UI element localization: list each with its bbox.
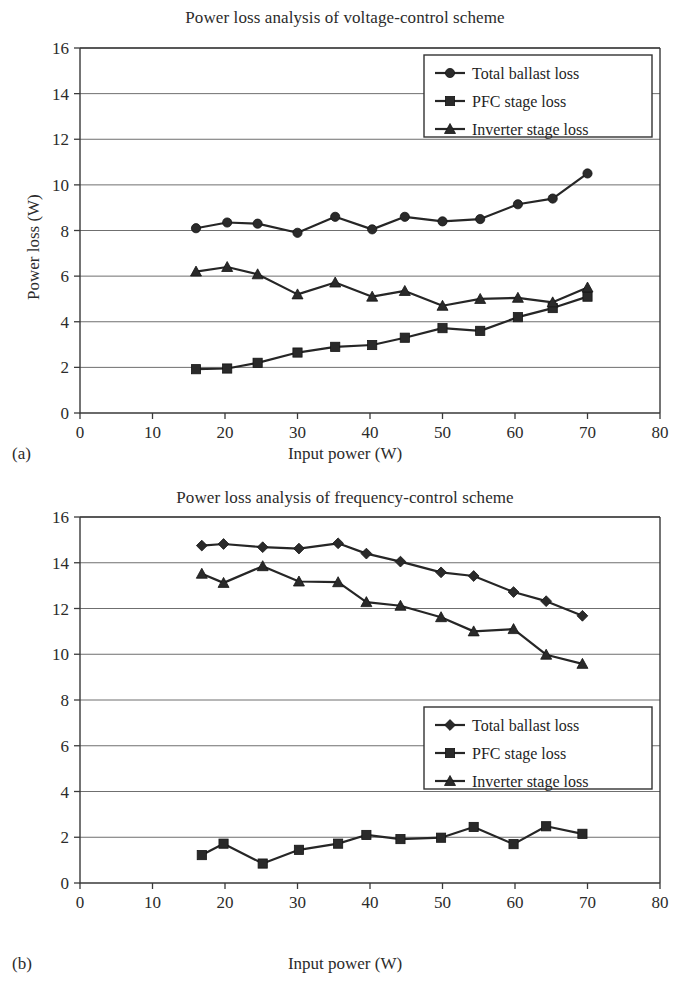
data-point-circle-marker	[438, 217, 447, 226]
y-tick-label: 4	[61, 313, 70, 332]
y-axis-title-a: Power loss (W)	[24, 194, 44, 300]
y-tick-label: 14	[52, 554, 70, 573]
x-tick-label: 40	[362, 423, 379, 440]
chart-legend: Total ballast lossPFC stage lossInverter…	[424, 707, 652, 791]
data-point-diamond-marker	[468, 571, 479, 582]
data-point-diamond-marker	[577, 610, 588, 621]
data-point-circle-marker	[368, 225, 377, 234]
data-point-square-marker	[293, 348, 302, 357]
data-point-square-marker	[294, 845, 303, 854]
series-line	[202, 566, 583, 664]
chart-svg-a: 024681012141601020304050607080Total ball…	[0, 0, 690, 440]
data-point-square-marker	[331, 342, 340, 351]
data-point-diamond-marker	[436, 567, 447, 578]
data-point-triangle-marker	[196, 568, 207, 578]
y-tick-label: 10	[52, 645, 69, 664]
plot-area-a: 024681012141601020304050607080Total ball…	[0, 0, 690, 480]
legend-label: PFC stage loss	[472, 93, 566, 111]
series-total-ballast-loss	[191, 169, 592, 238]
series-line	[196, 267, 588, 306]
data-point-diamond-marker	[361, 548, 372, 559]
y-tick-label: 0	[61, 874, 70, 893]
data-point-square-marker	[191, 365, 200, 374]
data-point-square-marker	[542, 822, 551, 831]
x-tick-label: 20	[217, 893, 234, 912]
data-point-square-marker	[445, 96, 454, 105]
x-tick-label: 30	[289, 423, 306, 440]
x-tick-label: 70	[579, 893, 596, 912]
y-tick-label: 2	[61, 828, 70, 847]
data-point-square-marker	[436, 833, 445, 842]
y-tick-label: 8	[61, 691, 70, 710]
data-point-square-marker	[445, 748, 454, 757]
x-tick-label: 0	[76, 893, 85, 912]
legend-label: Total ballast loss	[472, 717, 579, 734]
y-tick-label: 4	[61, 783, 70, 802]
x-tick-label: 60	[507, 423, 524, 440]
series-line	[202, 826, 583, 863]
y-tick-label: 10	[52, 176, 69, 195]
x-tick-label: 20	[217, 423, 234, 440]
data-point-square-marker	[509, 840, 518, 849]
legend-label: Inverter stage loss	[472, 121, 588, 139]
data-point-circle-marker	[253, 219, 262, 228]
data-point-diamond-marker	[508, 587, 519, 598]
x-tick-label: 60	[507, 893, 524, 912]
data-point-square-marker	[219, 839, 228, 848]
y-tick-label: 6	[61, 267, 70, 286]
series-pfc-stage-loss	[191, 292, 592, 374]
data-point-circle-marker	[331, 212, 340, 221]
y-tick-label: 16	[52, 508, 69, 527]
data-point-triangle-marker	[257, 561, 268, 571]
x-tick-label: 40	[362, 893, 379, 912]
y-tick-label: 0	[61, 404, 70, 423]
panel-label-b: (b)	[12, 954, 32, 974]
data-point-circle-marker	[583, 169, 592, 178]
data-point-triangle-marker	[582, 282, 593, 292]
data-point-diamond-marker	[218, 539, 229, 550]
legend-label: PFC stage loss	[472, 745, 566, 763]
legend-label: Total ballast loss	[472, 65, 579, 82]
data-point-square-marker	[362, 830, 371, 839]
data-point-square-marker	[223, 364, 232, 373]
data-point-square-marker	[197, 850, 206, 859]
data-point-square-marker	[578, 829, 587, 838]
data-point-circle-marker	[293, 228, 302, 237]
x-axis-title-a: Input power (W)	[0, 444, 690, 464]
data-point-square-marker	[253, 358, 262, 367]
x-tick-label: 0	[76, 423, 85, 440]
x-axis-title-b: Input power (W)	[0, 954, 690, 974]
data-point-diamond-marker	[541, 596, 552, 607]
panel-label-a: (a)	[12, 444, 31, 464]
data-point-square-marker	[476, 326, 485, 335]
legend-label: Inverter stage loss	[472, 773, 588, 791]
data-point-square-marker	[513, 313, 522, 322]
data-point-square-marker	[469, 822, 478, 831]
data-point-diamond-marker	[196, 540, 207, 551]
x-tick-label: 80	[652, 423, 669, 440]
data-point-triangle-marker	[399, 285, 410, 295]
data-point-square-marker	[334, 839, 343, 848]
data-point-square-marker	[368, 340, 377, 349]
figure-panel-b: Power loss analysis of frequency-control…	[0, 480, 690, 998]
x-tick-label: 10	[144, 893, 161, 912]
data-point-circle-marker	[548, 194, 557, 203]
data-point-circle-marker	[223, 218, 232, 227]
x-tick-label: 30	[289, 893, 306, 912]
data-point-circle-marker	[445, 68, 454, 77]
y-tick-label: 16	[52, 39, 69, 58]
data-point-diamond-marker	[257, 542, 268, 553]
data-point-circle-marker	[191, 224, 200, 233]
y-tick-label: 12	[52, 130, 69, 149]
series-inverter-stage-loss	[191, 262, 594, 311]
data-point-diamond-marker	[395, 556, 406, 567]
data-point-circle-marker	[513, 200, 522, 209]
x-tick-label: 70	[579, 423, 596, 440]
y-tick-label: 8	[61, 222, 70, 241]
data-point-triangle-marker	[330, 277, 341, 287]
data-point-square-marker	[583, 292, 592, 301]
figure-panel-a: Power loss analysis of voltage-control s…	[0, 0, 690, 480]
y-tick-label: 2	[61, 358, 70, 377]
data-point-circle-marker	[400, 212, 409, 221]
data-point-square-marker	[400, 333, 409, 342]
